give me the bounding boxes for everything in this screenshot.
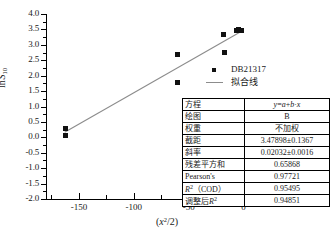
y-tick-label: -0.5	[1, 148, 39, 157]
data-point	[222, 50, 227, 55]
table-row: 调整后R20.94851	[183, 195, 330, 207]
square-marker-icon	[205, 63, 227, 76]
line-swatch-icon	[205, 76, 227, 89]
table-row: 截距3.47898±0.1367	[183, 135, 330, 147]
y-tick-label: 0.5	[1, 117, 39, 126]
stat-key: R2（COD）	[183, 183, 245, 195]
stat-value: 0.95495	[245, 183, 330, 195]
table-row: 绘图B	[183, 111, 330, 123]
table-row: Pearson's0.97721	[183, 171, 330, 183]
table-row: 斜率0.02032±0.0016	[183, 147, 330, 159]
table-row: R2（COD）0.95495	[183, 183, 330, 195]
stat-key: 方程	[183, 99, 245, 111]
y-tick-label: -1.5	[1, 179, 39, 188]
stat-value: 0.65868	[245, 159, 330, 171]
data-point	[63, 133, 68, 138]
x-tick-label: -150	[59, 202, 99, 212]
stat-value: 0.97721	[245, 171, 330, 183]
stat-value: B	[245, 111, 330, 123]
y-tick-label: 1.5	[1, 86, 39, 95]
y-tick-label: 0.0	[1, 132, 39, 141]
table-row: 权重不加权	[183, 123, 330, 135]
stat-key: Pearson's	[183, 171, 245, 183]
y-tick-label: 3.0	[1, 40, 39, 49]
y-tick-label: -1.0	[1, 163, 39, 172]
y-tick-label: -2.0	[1, 194, 39, 203]
y-tick-label: 2.5	[1, 55, 39, 64]
table-row: 方程y=a+b·x	[183, 99, 330, 111]
data-point	[221, 32, 226, 37]
legend: DB21317 拟合线	[205, 63, 290, 89]
data-point	[63, 126, 68, 131]
legend-item-fitline: 拟合线	[205, 76, 290, 89]
stat-key: 调整后R2	[183, 195, 245, 207]
data-point	[239, 28, 244, 33]
legend-item-db21317: DB21317	[205, 63, 290, 76]
fit-statistics-table: 方程y=a+b·x绘图B权重不加权截距3.47898±0.1367斜率0.020…	[182, 98, 330, 207]
stat-value: 3.47898±0.1367	[245, 135, 330, 147]
x-axis-label: (x2/2)	[117, 216, 217, 227]
y-tick-mark	[41, 199, 47, 200]
y-tick-label: 4.0	[1, 9, 39, 18]
stat-key: 残差平方和	[183, 159, 245, 171]
stat-value: 0.02032±0.0016	[245, 147, 330, 159]
stat-value: 0.94851	[245, 195, 330, 207]
legend-label: DB21317	[231, 63, 266, 75]
stat-key: 斜率	[183, 147, 245, 159]
y-tick-label: 3.5	[1, 24, 39, 33]
y-tick-label: 1.0	[1, 102, 39, 111]
stat-key: 绘图	[183, 111, 245, 123]
table-row: 残差平方和0.65868	[183, 159, 330, 171]
stat-value: 不加权	[245, 123, 330, 135]
stat-key: 截距	[183, 135, 245, 147]
legend-label: 拟合线	[231, 76, 258, 88]
stat-key: 权重	[183, 123, 245, 135]
data-point	[175, 52, 180, 57]
x-tick-label: -100	[114, 202, 154, 212]
data-point	[175, 80, 180, 85]
stat-value: y=a+b·x	[245, 99, 330, 111]
y-tick-label: 2.0	[1, 71, 39, 80]
chart-figure: ln S10 4.03.53.02.52.01.51.00.50.0-0.5-1…	[0, 0, 332, 239]
